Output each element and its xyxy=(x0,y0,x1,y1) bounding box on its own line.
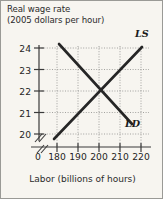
curve-labor-demand xyxy=(59,44,132,124)
y-tick-label-22: 22 xyxy=(7,86,31,97)
curve-label-ld: LD xyxy=(125,118,140,129)
y-tick-label-24: 24 xyxy=(7,43,31,54)
curve-label-ls: LS xyxy=(135,28,149,39)
y-tick-label-23: 23 xyxy=(7,65,31,76)
x-tick-label-220: 220 xyxy=(128,151,154,162)
x-axis-caption: Labor (billions of hours) xyxy=(1,174,163,184)
figure-panel: Real wage rate (2005 dollars per hour) xyxy=(0,0,163,199)
y-tick-label-20: 20 xyxy=(7,129,31,140)
y-tick-label-21: 21 xyxy=(7,108,31,119)
